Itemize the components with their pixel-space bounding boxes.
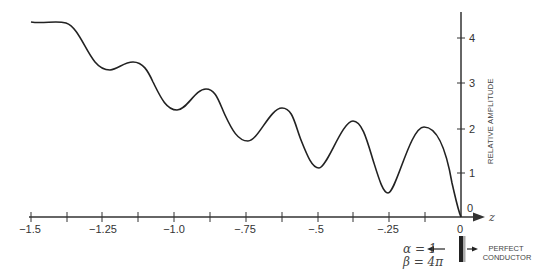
perfect-conductor-label-line2: CONDUCTOR bbox=[483, 253, 532, 262]
x-tick-label: −1.25 bbox=[89, 223, 117, 235]
arrow-right-icon bbox=[467, 247, 478, 252]
beta-param: β = 4π bbox=[402, 255, 444, 269]
perfect-conductor-plate bbox=[459, 236, 463, 262]
x-tick-label: −.75 bbox=[234, 223, 256, 235]
x-tick-label: −.5 bbox=[308, 223, 324, 235]
y-axis-title: RELATIVE AMPLITUDE bbox=[486, 78, 495, 164]
amplitude-curve bbox=[31, 22, 461, 217]
x-tick-label: −.25 bbox=[377, 223, 399, 235]
y-tick-label: 4 bbox=[469, 32, 475, 44]
perfect-conductor-label-line1: PERFECT bbox=[488, 244, 523, 253]
y-axis: 1 2 3 4 0 RELATIVE AMPLITUDE bbox=[457, 12, 495, 217]
y-tick-label: 2 bbox=[469, 123, 475, 135]
x-tick-label: −1.0 bbox=[163, 223, 185, 235]
x-tick-label-origin: 0 bbox=[457, 223, 463, 235]
alpha-param: α = 1 bbox=[403, 242, 436, 256]
x-tick-label: −1.5 bbox=[19, 223, 41, 235]
y-tick-label: 1 bbox=[469, 167, 475, 179]
x-axis: −1.5 −1.25 −1.0 −.75 −.5 −.25 0 z bbox=[19, 211, 495, 235]
conductor-annotation: α = 1 β = 4π PERFECT CONDUCTOR bbox=[402, 236, 532, 269]
amplitude-chart: −1.5 −1.25 −1.0 −.75 −.5 −.25 0 z 1 2 3 … bbox=[0, 0, 548, 279]
y-tick-label: 3 bbox=[469, 77, 475, 89]
y-tick-label-origin: 0 bbox=[467, 202, 473, 214]
x-axis-variable: z bbox=[488, 211, 495, 224]
